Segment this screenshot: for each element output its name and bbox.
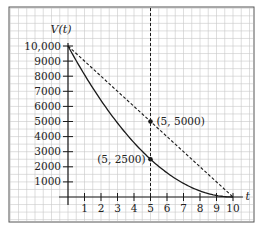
y-tick-label: 2000 [34, 160, 61, 172]
y-axis-label: V(t) [51, 23, 72, 36]
y-tick-label: 5000 [34, 115, 61, 127]
data-point [148, 157, 153, 162]
y-tick-label: 8000 [34, 70, 61, 82]
y-tick-label: 1000 [34, 175, 61, 187]
x-tick-label: 6 [164, 202, 171, 214]
x-axis-label: t [245, 190, 250, 203]
point-label: (5, 2500) [97, 153, 145, 165]
y-tick-label: 10,000 [24, 40, 61, 52]
chart: 1234567891010002000300040005000600070008… [0, 0, 258, 235]
x-tick-label: 8 [197, 202, 204, 214]
x-tick-label: 9 [213, 202, 220, 214]
x-tick-label: 2 [98, 202, 105, 214]
y-tick-label: 4000 [34, 130, 61, 142]
y-tick-label: 7000 [34, 85, 61, 97]
x-tick-label: 4 [131, 202, 138, 214]
point-label: (5, 5000) [157, 115, 205, 127]
y-tick-label: 3000 [34, 145, 61, 157]
y-tick-label: 9000 [34, 55, 61, 67]
data-point [148, 119, 153, 124]
x-tick-label: 3 [114, 202, 121, 214]
x-tick-label: 7 [180, 202, 187, 214]
x-tick-label: 10 [226, 202, 239, 214]
y-tick-label: 6000 [34, 100, 61, 112]
x-tick-label: 5 [147, 202, 154, 214]
x-tick-label: 1 [81, 202, 88, 214]
